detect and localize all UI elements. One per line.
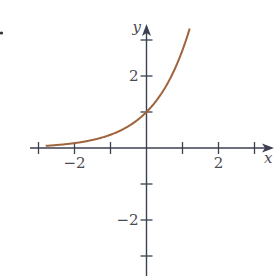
exponential-graph: −222−2 x y	[0, 0, 276, 278]
x-tick-label: −2	[63, 154, 85, 172]
y-tick-label: −2	[116, 211, 138, 229]
x-axis-label: x	[264, 149, 273, 167]
y-tick-label: 2	[129, 67, 139, 85]
x-tick-label: 2	[214, 154, 224, 172]
curve-exp	[46, 28, 190, 145]
bullet-dot	[0, 31, 3, 34]
y-axis-label: y	[132, 18, 142, 36]
axes	[30, 24, 274, 276]
